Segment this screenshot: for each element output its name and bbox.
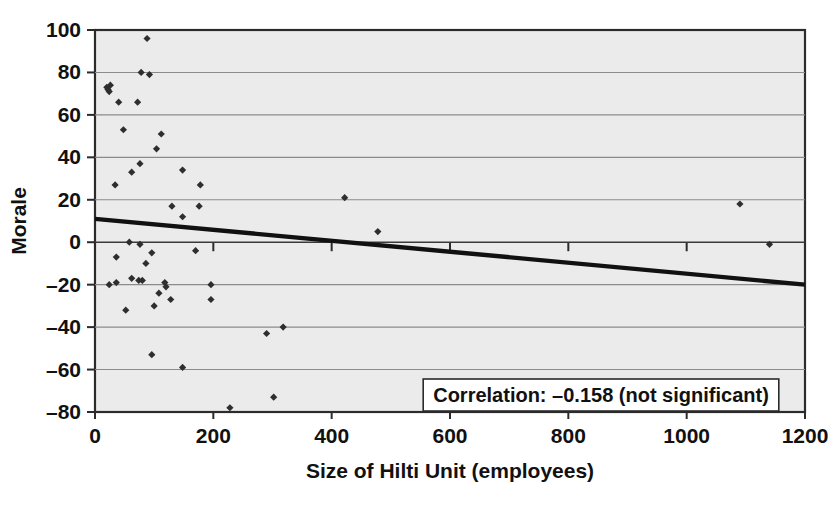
y-tick-label-40: 40 [58, 145, 81, 168]
correlation-label: Correlation: –0.158 (not significant) [433, 384, 769, 406]
y-tick-label-20: 20 [58, 188, 81, 211]
y-tick-label-100: 100 [46, 18, 81, 41]
x-tick-label-0: 0 [89, 424, 101, 447]
x-tick-label-800: 800 [551, 424, 586, 447]
y-tick-label--20: –20 [46, 273, 81, 296]
correlation-annotation: Correlation: –0.158 (not significant) [423, 379, 779, 411]
y-tick-label--40: –40 [46, 315, 81, 338]
plot-area-frame [95, 30, 805, 412]
x-tick-label-200: 200 [196, 424, 231, 447]
x-tick-label-400: 400 [314, 424, 349, 447]
y-tick-label--80: –80 [46, 400, 81, 423]
scatter-plot-figure: 100806040200–20–40–60–80 020040060080010… [0, 0, 837, 515]
y-axis-title: Morale [7, 187, 30, 255]
chart-canvas: 100806040200–20–40–60–80 020040060080010… [0, 0, 837, 515]
x-axis-title: Size of Hilti Unit (employees) [306, 459, 594, 482]
x-tick-label-1200: 1200 [782, 424, 829, 447]
x-tick-label-600: 600 [432, 424, 467, 447]
y-tick-label-60: 60 [58, 103, 81, 126]
y-tick-label-80: 80 [58, 60, 81, 83]
y-tick-label--60: –60 [46, 358, 81, 381]
x-tick-label-1000: 1000 [663, 424, 710, 447]
y-tick-label-0: 0 [69, 230, 81, 253]
